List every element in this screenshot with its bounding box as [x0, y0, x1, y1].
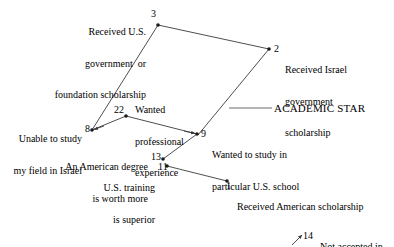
- edge-3-to-2: [158, 25, 269, 49]
- node-label-3-line3: foundation scholarship: [18, 90, 146, 101]
- node-number-22[interactable]: 22: [114, 105, 124, 115]
- node-label-2-line1: Received Israel: [285, 65, 390, 76]
- node-number-8[interactable]: 8: [85, 124, 90, 134]
- node-number-9[interactable]: 9: [201, 129, 206, 139]
- node-dot-3[interactable]: [156, 23, 160, 27]
- node-label-11-line2: is superior: [60, 215, 155, 226]
- node-label-14: Not accepted in school in Israel: [320, 221, 394, 247]
- node-label-3: Received U.S. government or foundation s…: [18, 6, 146, 122]
- node-number-1[interactable]: 1: [226, 181, 231, 191]
- node-number-14[interactable]: 14: [303, 231, 313, 241]
- node-label-3-line1: Received U.S.: [18, 27, 146, 38]
- node-number-11[interactable]: 11: [158, 162, 168, 172]
- node-label-3-line2: government or: [18, 59, 146, 70]
- arrow-into-node-14: [292, 235, 302, 245]
- academic-star-diagram: Received U.S. government or foundation s…: [0, 0, 394, 247]
- node-label-22-line1: Wanted: [135, 105, 215, 116]
- clipped-bottom-text: [150, 241, 280, 247]
- node-label-11-line1: U.S. training: [60, 183, 155, 194]
- node-number-3[interactable]: 3: [151, 9, 156, 19]
- arrow-into-node-8: [94, 126, 104, 130]
- node-label-11: U.S. training is superior: [60, 162, 155, 246]
- node-label-9-line1: Wanted to study in: [212, 150, 332, 161]
- node-label-14-line1: Not accepted in: [320, 242, 394, 247]
- node-dot-2[interactable]: [267, 47, 271, 51]
- node-label-1-line1: Received American scholarship: [237, 202, 392, 213]
- node-number-2[interactable]: 2: [274, 44, 279, 54]
- academic-star-caption: ACADEMIC STAR: [274, 103, 365, 114]
- node-dot-8[interactable]: [90, 128, 94, 132]
